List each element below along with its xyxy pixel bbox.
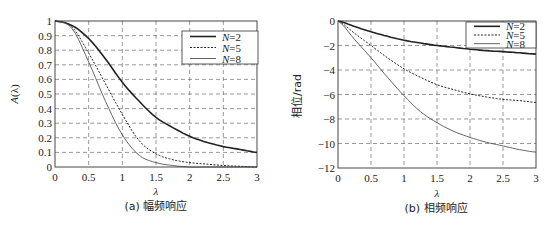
y-tick-label: 0 <box>330 15 336 27</box>
x-axis-label: λ <box>153 185 159 197</box>
amplitude-response-plot: 00.511.522.5300.10.20.30.40.50.60.70.80.… <box>8 15 260 213</box>
y-axis-label: A(λ) <box>8 84 21 105</box>
legend-entry: N=8 <box>221 53 242 65</box>
x-tick-label: 3 <box>254 171 260 183</box>
x-tick-label: 0 <box>52 171 58 183</box>
y-tick-label: 0 <box>47 161 53 173</box>
y-tick-label: −6 <box>323 89 335 101</box>
legend: N=2N=5N=8 <box>182 31 258 65</box>
x-tick-label: 0.5 <box>364 172 378 184</box>
x-tick-label: 1.5 <box>430 172 444 184</box>
y-tick-label: 0.7 <box>38 59 52 71</box>
phase-response-plot: 00.511.522.530−2−4−6−8−10−12N=2N=5N=8λ相位… <box>290 15 539 215</box>
x-tick-label: 1 <box>401 172 407 184</box>
y-tick-label: 0.3 <box>38 117 52 129</box>
x-tick-label: 3 <box>533 172 539 184</box>
y-tick-label: 0.6 <box>38 73 52 85</box>
y-tick-label: −10 <box>318 138 336 150</box>
y-tick-label: −12 <box>318 162 335 174</box>
y-axis-label: 相位/rad <box>290 74 304 118</box>
x-tick-label: 1.5 <box>149 171 163 183</box>
y-tick-label: 0.2 <box>38 132 52 144</box>
figure-caption: (a) 幅频响应 <box>125 199 188 213</box>
chart-canvas: 00.511.522.5300.10.20.30.40.50.60.70.80.… <box>0 0 556 228</box>
legend-entry: N=8 <box>505 38 526 50</box>
y-tick-label: 0.5 <box>38 88 52 100</box>
y-tick-label: −8 <box>323 113 335 125</box>
y-tick-label: −2 <box>323 40 335 52</box>
x-tick-label: 2.5 <box>216 171 230 183</box>
y-tick-label: 1 <box>47 15 53 27</box>
legend: N=2N=5N=8 <box>466 20 536 49</box>
y-tick-label: −4 <box>323 64 335 76</box>
y-tick-label: 0.9 <box>38 30 52 42</box>
x-tick-label: 2 <box>187 171 193 183</box>
x-tick-label: 0.5 <box>82 171 96 183</box>
x-tick-label: 2 <box>467 172 473 184</box>
x-tick-label: 1 <box>120 171 126 183</box>
x-axis-label: λ <box>434 187 440 199</box>
x-tick-label: 2.5 <box>496 172 510 184</box>
figure-caption: (b) 相频响应 <box>404 201 467 215</box>
y-tick-label: 0.1 <box>38 146 52 158</box>
y-tick-label: 0.8 <box>38 44 52 56</box>
y-tick-label: 0.4 <box>38 103 52 115</box>
x-tick-label: 0 <box>335 172 341 184</box>
